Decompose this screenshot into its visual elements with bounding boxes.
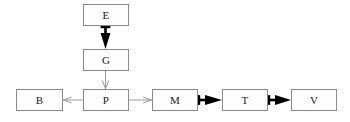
edge-m-to-t [198, 95, 222, 105]
node-label-t: T [242, 95, 249, 106]
node-label-b: B [36, 95, 44, 106]
node-box-m[interactable]: M [152, 89, 198, 111]
node-label-p: P [103, 95, 109, 106]
node-box-t[interactable]: T [222, 89, 268, 111]
node-label-m: M [170, 95, 180, 106]
edge-g-to-p [102, 71, 108, 89]
edge-p-to-b [63, 97, 83, 103]
diagram-canvas: E G B P M T V [0, 0, 350, 122]
edge-p-to-m [129, 97, 152, 103]
edge-t-to-v [268, 95, 291, 105]
node-box-p[interactable]: P [83, 89, 129, 111]
node-label-v: V [310, 95, 318, 106]
node-label-e: E [103, 10, 110, 21]
node-box-v[interactable]: V [291, 89, 337, 111]
node-box-b[interactable]: B [16, 89, 63, 111]
node-box-g[interactable]: G [83, 49, 129, 71]
node-box-e[interactable]: E [83, 4, 129, 26]
node-label-g: G [102, 55, 110, 66]
edge-e-to-g [101, 26, 111, 49]
